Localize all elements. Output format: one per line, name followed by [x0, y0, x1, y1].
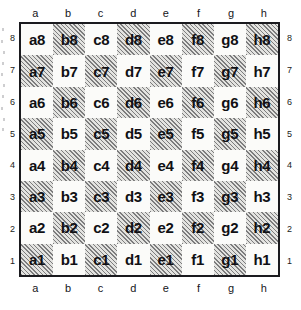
board-square-g2[interactable]: g2	[214, 212, 246, 243]
board-square-h7[interactable]: h7	[246, 55, 278, 86]
board-square-a5[interactable]: a5	[21, 118, 53, 149]
board-grid: a8b8c8d8e8f8g8h8a7b7c7d7e7f7g7h7a6b6c6d6…	[21, 24, 278, 275]
board-square-e3[interactable]: e3	[150, 181, 182, 212]
board-square-d4[interactable]: d4	[117, 150, 149, 181]
file-label-a-bottom: a	[19, 281, 52, 295]
square-label: d8	[125, 32, 142, 47]
file-label-f-top: f	[182, 6, 215, 20]
board-square-h1[interactable]: h1	[246, 244, 278, 275]
board-square-h3[interactable]: h3	[246, 181, 278, 212]
board-square-d2[interactable]: d2	[117, 212, 149, 243]
board-square-b1[interactable]: b1	[53, 244, 85, 275]
board-square-g1[interactable]: g1	[214, 244, 246, 275]
board-square-a6[interactable]: a6	[21, 87, 53, 118]
board-square-a2[interactable]: a2	[21, 212, 53, 243]
board-square-h2[interactable]: h2	[246, 212, 278, 243]
board-square-c4[interactable]: c4	[85, 150, 117, 181]
board-square-b7[interactable]: b7	[53, 55, 85, 86]
board-square-b8[interactable]: b8	[53, 24, 85, 55]
file-label-g-top: g	[215, 6, 248, 20]
board-square-a4[interactable]: a4	[21, 150, 53, 181]
rank-label-5-right: 5	[284, 118, 298, 150]
board-square-f6[interactable]: f6	[182, 87, 214, 118]
square-label: g2	[221, 220, 238, 235]
board-square-c6[interactable]: c6	[85, 87, 117, 118]
board-square-f8[interactable]: f8	[182, 24, 214, 55]
board-square-f5[interactable]: f5	[182, 118, 214, 149]
board-square-c1[interactable]: c1	[85, 244, 117, 275]
board-square-f3[interactable]: f3	[182, 181, 214, 212]
chessboard: a8b8c8d8e8f8g8h8a7b7c7d7e7f7g7h7a6b6c6d6…	[19, 22, 280, 277]
board-square-e2[interactable]: e2	[150, 212, 182, 243]
board-square-c2[interactable]: c2	[85, 212, 117, 243]
board-square-b6[interactable]: b6	[53, 87, 85, 118]
square-label: e6	[157, 95, 173, 110]
board-square-d3[interactable]: d3	[117, 181, 149, 212]
board-square-f7[interactable]: f7	[182, 55, 214, 86]
board-square-d1[interactable]: d1	[117, 244, 149, 275]
square-label: c2	[93, 220, 109, 235]
board-square-g7[interactable]: g7	[214, 55, 246, 86]
board-square-a7[interactable]: a7	[21, 55, 53, 86]
board-square-c3[interactable]: c3	[85, 181, 117, 212]
square-label: c5	[93, 126, 109, 141]
scan-edge-artifacts	[0, 24, 8, 134]
square-label: a2	[29, 220, 45, 235]
board-square-h6[interactable]: h6	[246, 87, 278, 118]
board-square-e1[interactable]: e1	[150, 244, 182, 275]
square-label: g6	[221, 95, 238, 110]
board-square-e8[interactable]: e8	[150, 24, 182, 55]
square-label: h8	[253, 32, 270, 47]
square-label: e5	[157, 126, 173, 141]
board-square-h5[interactable]: h5	[246, 118, 278, 149]
rank-label-1-left: 1	[3, 245, 17, 277]
board-square-g5[interactable]: g5	[214, 118, 246, 149]
square-label: f4	[191, 158, 204, 173]
board-square-c7[interactable]: c7	[85, 55, 117, 86]
board-square-f4[interactable]: f4	[182, 150, 214, 181]
file-labels-bottom: abcdefgh	[19, 281, 280, 295]
board-square-d6[interactable]: d6	[117, 87, 149, 118]
square-label: g4	[221, 158, 238, 173]
board-square-e7[interactable]: e7	[150, 55, 182, 86]
board-square-b4[interactable]: b4	[53, 150, 85, 181]
square-label: d4	[125, 158, 142, 173]
board-square-c5[interactable]: c5	[85, 118, 117, 149]
board-square-d8[interactable]: d8	[117, 24, 149, 55]
square-label: c4	[93, 158, 109, 173]
board-square-d5[interactable]: d5	[117, 118, 149, 149]
square-label: e3	[157, 189, 173, 204]
board-square-b2[interactable]: b2	[53, 212, 85, 243]
square-label: h2	[253, 220, 270, 235]
board-square-g4[interactable]: g4	[214, 150, 246, 181]
board-square-c8[interactable]: c8	[85, 24, 117, 55]
rank-label-7-right: 7	[284, 54, 298, 86]
board-square-h8[interactable]: h8	[246, 24, 278, 55]
square-label: g3	[221, 189, 238, 204]
square-label: h1	[253, 252, 270, 267]
board-square-a1[interactable]: a1	[21, 244, 53, 275]
square-label: c3	[93, 189, 109, 204]
board-square-f1[interactable]: f1	[182, 244, 214, 275]
rank-label-3-left: 3	[3, 181, 17, 213]
square-label: a7	[29, 64, 45, 79]
board-square-d7[interactable]: d7	[117, 55, 149, 86]
board-square-h4[interactable]: h4	[246, 150, 278, 181]
board-square-b5[interactable]: b5	[53, 118, 85, 149]
board-square-g8[interactable]: g8	[214, 24, 246, 55]
square-label: f3	[191, 189, 204, 204]
board-square-e5[interactable]: e5	[150, 118, 182, 149]
board-square-g6[interactable]: g6	[214, 87, 246, 118]
square-label: c7	[93, 64, 109, 79]
board-square-e6[interactable]: e6	[150, 87, 182, 118]
board-square-a3[interactable]: a3	[21, 181, 53, 212]
board-square-b3[interactable]: b3	[53, 181, 85, 212]
board-square-a8[interactable]: a8	[21, 24, 53, 55]
board-square-f2[interactable]: f2	[182, 212, 214, 243]
rank-label-4-left: 4	[3, 150, 17, 182]
rank-label-2-left: 2	[3, 213, 17, 245]
square-label: d1	[125, 252, 142, 267]
board-square-g3[interactable]: g3	[214, 181, 246, 212]
file-label-h-top: h	[247, 6, 280, 20]
board-square-e4[interactable]: e4	[150, 150, 182, 181]
